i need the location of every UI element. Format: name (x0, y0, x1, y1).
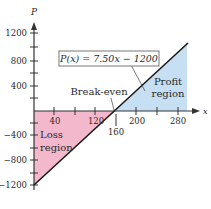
y-axis-arrow-icon (31, 22, 37, 30)
svg-text:1200: 1200 (5, 28, 27, 38)
loss-region-label-1: Loss (40, 129, 63, 140)
svg-text:−800: −800 (4, 155, 27, 165)
svg-text:800: 800 (11, 56, 27, 66)
y-axis-label: P (30, 7, 38, 17)
svg-text:280: 280 (170, 116, 186, 126)
break-even-label: Break-even (70, 86, 128, 97)
break-even-leader-line (111, 98, 114, 110)
svg-text:−1200: −1200 (0, 180, 27, 190)
svg-text:400: 400 (11, 81, 27, 91)
svg-text:160: 160 (108, 127, 124, 137)
x-axis-arrow-icon (192, 108, 200, 114)
svg-text:200: 200 (129, 116, 145, 126)
profit-region-label-2: region (152, 88, 185, 99)
x-axis-label: x (203, 107, 208, 116)
break-even-chart: P(x) = 7.50x − 1200 1200 800 400 −400 −8… (0, 0, 211, 209)
svg-text:40: 40 (50, 116, 61, 126)
svg-text:−400: −400 (4, 130, 27, 140)
loss-region-label-2: region (40, 142, 73, 153)
svg-text:120: 120 (88, 116, 104, 126)
equation-leader-line (131, 65, 145, 91)
profit-region-label-1: Profit (154, 76, 182, 87)
equation-label: P(x) = 7.50x − 1200 (59, 53, 158, 64)
y-tick-labels: 1200 800 400 −400 −800 −1200 (0, 28, 27, 190)
